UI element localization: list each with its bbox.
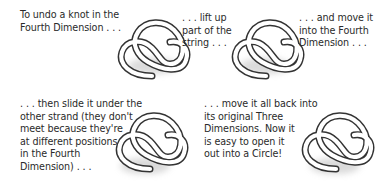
trefoil-knot-icon bbox=[296, 107, 376, 179]
trefoil-knot-icon bbox=[110, 107, 190, 179]
step-3-caption: . . . and move it into the Fourth Dimens… bbox=[299, 12, 373, 50]
step-1-caption: To undo a knot in the Fourth Dimension .… bbox=[20, 9, 121, 34]
trefoil-knot-icon bbox=[112, 14, 192, 86]
step-2-caption: . . . lift up part of the string . . . bbox=[182, 12, 232, 50]
trefoil-knot-icon bbox=[226, 14, 306, 86]
